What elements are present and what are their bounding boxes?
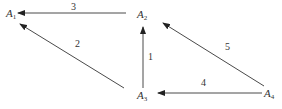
edge-label-5: 5 xyxy=(225,42,230,52)
node-a3-letter: A xyxy=(137,89,144,101)
edge-arrow-5 xyxy=(163,23,264,86)
edge-label-2: 2 xyxy=(75,39,80,49)
node-a1-letter: A xyxy=(6,7,13,19)
node-a4-letter: A xyxy=(264,87,271,99)
directed-graph-diagram: A1 A2 A3 A4 1 2 3 4 5 xyxy=(0,0,282,109)
node-a2-subscript: 2 xyxy=(144,14,148,22)
node-a1: A1 xyxy=(6,8,16,21)
node-a3: A3 xyxy=(137,90,147,103)
edge-label-1: 1 xyxy=(148,52,153,62)
node-a2-letter: A xyxy=(137,8,144,20)
node-a2: A2 xyxy=(137,9,147,22)
edge-label-4: 4 xyxy=(201,78,206,88)
edge-label-3: 3 xyxy=(71,2,76,12)
node-a4-subscript: 4 xyxy=(271,93,275,101)
node-a3-subscript: 3 xyxy=(144,95,148,103)
node-a4: A4 xyxy=(264,88,274,101)
edge-arrow-2 xyxy=(20,24,124,88)
node-a1-subscript: 1 xyxy=(13,13,17,21)
